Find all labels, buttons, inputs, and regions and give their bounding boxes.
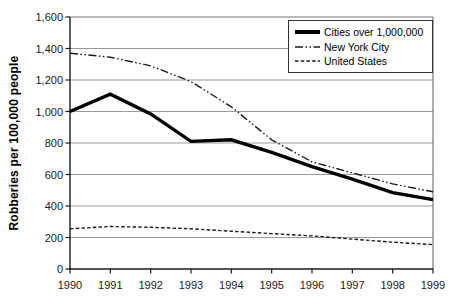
legend: Cities over 1,000,000 New York City Unit… <box>288 20 433 73</box>
legend-label: Cities over 1,000,000 <box>324 26 423 38</box>
series-line-cities-over-1-000-000 <box>70 94 433 200</box>
y-tick-label: 0 <box>57 263 63 275</box>
y-tick-label: 400 <box>45 200 63 212</box>
y-tick-label: 1,000 <box>35 106 63 118</box>
y-tick-label: 600 <box>45 169 63 181</box>
y-axis-title: Robberies per 100,000 people <box>7 55 21 230</box>
y-tick-label: 200 <box>45 232 63 244</box>
x-tick-label: 1990 <box>58 279 82 291</box>
legend-label: New York City <box>324 41 389 53</box>
x-tick-label: 1998 <box>380 279 404 291</box>
y-tick-label: 800 <box>45 137 63 149</box>
series-line-new-york-city <box>70 53 433 192</box>
y-tick-label: 1,400 <box>35 43 63 55</box>
legend-item-new-york-city: New York City <box>295 41 430 53</box>
x-tick-label: 1996 <box>300 279 324 291</box>
robbery-rate-line-chart: 02004006008001,0001,2001,4001,6001990199… <box>0 0 455 305</box>
legend-item-united-states: United States <box>295 55 430 67</box>
legend-line-sample-dash-dot-dot <box>295 42 320 52</box>
legend-line-sample-dashed <box>295 56 320 66</box>
series-line-united-states <box>70 227 433 245</box>
x-tick-label: 1999 <box>421 279 445 291</box>
y-tick-label: 1,200 <box>35 74 63 86</box>
x-tick-label: 1993 <box>179 279 203 291</box>
x-tick-label: 1995 <box>259 279 283 291</box>
x-tick-label: 1994 <box>219 279 243 291</box>
x-tick-label: 1997 <box>340 279 364 291</box>
legend-line-sample-solid-thick <box>295 27 320 37</box>
legend-item-cities-over-1000000: Cities over 1,000,000 <box>295 26 430 38</box>
x-tick-label: 1992 <box>138 279 162 291</box>
y-tick-label: 1,600 <box>35 11 63 23</box>
legend-label: United States <box>324 55 387 67</box>
x-tick-label: 1991 <box>98 279 122 291</box>
